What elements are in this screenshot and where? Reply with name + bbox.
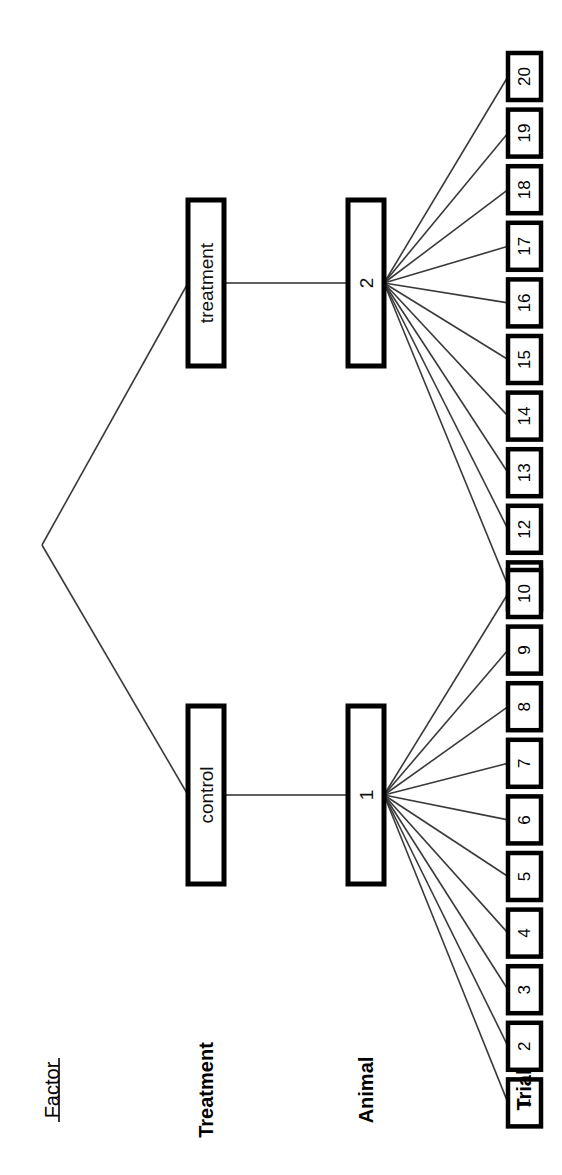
edge-root-to-treatment (42, 283, 188, 545)
trial-node-14[interactable]: 14 (508, 393, 541, 440)
edge-to-trial-1 (384, 795, 508, 1103)
trial-node-16[interactable]: 16 (508, 279, 541, 326)
trial-node-6[interactable]: 6 (508, 796, 541, 843)
control-box-label: control (196, 766, 217, 823)
trial-box-label-2: 2 (515, 1042, 534, 1051)
edge-to-trial-12 (384, 283, 508, 529)
animal1-box-label: 1 (356, 790, 377, 801)
hierarchy-diagram: treatment control 2 1 201918171615141312… (0, 0, 562, 1175)
trial-box-group: 2019181716151413121110987654321 (508, 53, 541, 1126)
edge-to-trial-2 (384, 795, 508, 1046)
trial-box-label-8: 8 (515, 702, 534, 711)
trial-node-15[interactable]: 15 (508, 336, 541, 383)
trial-node-20[interactable]: 20 (508, 53, 541, 100)
trial-node-8[interactable]: 8 (508, 683, 541, 730)
treatment-node-treatment[interactable]: treatment (188, 200, 224, 366)
treatment-box-label: treatment (196, 242, 217, 323)
trial-node-3[interactable]: 3 (508, 966, 541, 1013)
trial-box-label-14: 14 (515, 407, 534, 426)
trial-node-13[interactable]: 13 (508, 449, 541, 496)
edge-to-trial-9 (384, 650, 508, 795)
edge-to-trial-19 (384, 133, 508, 283)
trial-box-label-15: 15 (515, 350, 534, 369)
trial-box-label-16: 16 (515, 293, 534, 312)
edge-to-trial-11 (384, 283, 508, 586)
animal2-to-trial-connectors (384, 77, 508, 586)
edge-to-trial-10 (384, 594, 508, 796)
edge-to-trial-18 (384, 190, 508, 283)
trial-node-9[interactable]: 9 (508, 627, 541, 674)
trial-node-5[interactable]: 5 (508, 853, 541, 900)
edge-to-trial-8 (384, 707, 508, 795)
trial-node-7[interactable]: 7 (508, 740, 541, 787)
edge-root-to-control (42, 545, 188, 795)
animal1-to-trial-connectors (384, 594, 508, 1103)
trial-node-17[interactable]: 17 (508, 223, 541, 270)
treatment-node-control[interactable]: control (188, 706, 224, 884)
root-connectors (42, 283, 188, 795)
trial-node-4[interactable]: 4 (508, 910, 541, 957)
edge-to-trial-16 (384, 283, 508, 303)
trial-box-label-10: 10 (515, 584, 534, 603)
trial-node-2[interactable]: 2 (508, 1023, 541, 1070)
treatment-to-animal-connectors (224, 283, 348, 795)
animal-node-2[interactable]: 2 (348, 200, 384, 366)
row-label-trial: Trial (513, 1069, 535, 1110)
trial-box-label-6: 6 (515, 815, 534, 824)
trial-node-10[interactable]: 10 (508, 570, 541, 617)
edge-to-trial-14 (384, 283, 508, 416)
trial-box-label-17: 17 (515, 237, 534, 256)
row-label-animal: Animal (355, 1057, 377, 1124)
edge-to-trial-13 (384, 283, 508, 473)
trial-box-label-9: 9 (515, 645, 534, 654)
trial-box-label-7: 7 (515, 759, 534, 768)
trial-box-label-18: 18 (515, 180, 534, 199)
trial-node-19[interactable]: 19 (508, 110, 541, 157)
trial-box-label-5: 5 (515, 872, 534, 881)
animal2-box-label: 2 (356, 278, 377, 289)
edge-to-trial-7 (384, 763, 508, 795)
edge-to-trial-3 (384, 795, 508, 990)
trial-box-label-20: 20 (515, 67, 534, 86)
row-label-factor: Factor (41, 1058, 63, 1122)
trial-node-12[interactable]: 12 (508, 506, 541, 553)
trial-box-label-4: 4 (515, 928, 534, 937)
trial-box-label-19: 19 (515, 124, 534, 143)
trial-box-label-12: 12 (515, 520, 534, 539)
diagram-canvas: treatment control 2 1 201918171615141312… (0, 0, 562, 1175)
trial-box-label-13: 13 (515, 463, 534, 482)
trial-box-label-3: 3 (515, 985, 534, 994)
row-label-treatment: Treatment (195, 1042, 217, 1138)
trial-node-18[interactable]: 18 (508, 166, 541, 213)
animal-node-1[interactable]: 1 (348, 706, 384, 884)
